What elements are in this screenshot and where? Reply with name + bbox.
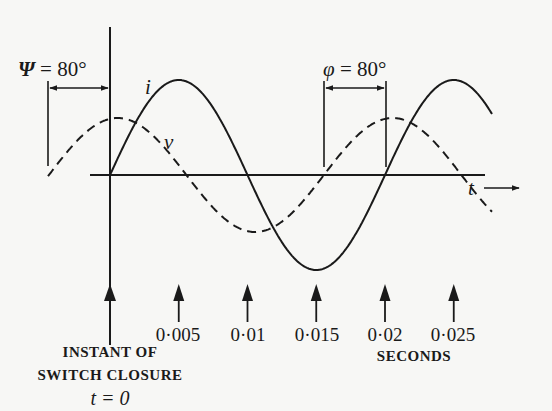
time-tick-arrow-icon bbox=[311, 284, 322, 301]
time-tick-arrow-icon bbox=[173, 284, 184, 301]
time-tick-arrow-icon bbox=[448, 284, 459, 301]
psi-label: Ψ = 80° bbox=[18, 59, 87, 80]
voltage-label: v bbox=[164, 132, 173, 153]
origin-caption-line-2: SWITCH CLOSURE bbox=[38, 368, 183, 383]
seconds-label: SECONDS bbox=[377, 349, 451, 364]
psi-angle-marker bbox=[48, 81, 108, 166]
tick-label-0-02: 0·02 bbox=[368, 325, 403, 344]
origin-caption-line-3: t = 0 bbox=[90, 388, 129, 408]
switch-closure-arrow-icon bbox=[104, 284, 116, 301]
tick-label-0-015: 0·015 bbox=[295, 325, 339, 344]
time-tick-arrow-icon bbox=[380, 284, 391, 301]
tick-label-0-025: 0·025 bbox=[431, 325, 475, 344]
time-tick-arrow-icon bbox=[242, 284, 253, 301]
current-label: i bbox=[145, 77, 151, 98]
time-tick-arrows bbox=[173, 284, 459, 322]
origin-caption-line-1: INSTANT OF bbox=[63, 345, 158, 360]
phi-angle-marker bbox=[324, 81, 386, 167]
time-axis-label: t bbox=[468, 178, 474, 199]
tick-label-0-005: 0·005 bbox=[156, 325, 200, 344]
phi-label: φ = 80° bbox=[323, 59, 386, 80]
tick-label-0-01: 0·01 bbox=[231, 325, 266, 344]
